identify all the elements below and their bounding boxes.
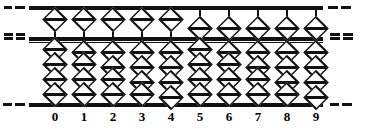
bead-rod-line bbox=[248, 93, 268, 96]
bead-rod-line bbox=[306, 81, 326, 84]
frame-dash-right bbox=[343, 33, 353, 36]
bead-rod-line bbox=[103, 51, 123, 54]
bead-rod-line bbox=[45, 78, 65, 81]
bead-rod-line bbox=[219, 63, 239, 66]
bead-rod-line bbox=[190, 63, 210, 66]
bead-rod-line bbox=[190, 93, 210, 96]
frame-dash-right bbox=[341, 6, 351, 9]
bead-rod-line bbox=[248, 78, 268, 81]
bead-rod-line bbox=[306, 27, 326, 30]
abacus-beam-edge-line bbox=[29, 42, 323, 43]
bead-rod-line bbox=[277, 66, 297, 69]
heaven-bead-col-1-inactive[interactable] bbox=[71, 11, 97, 28]
bead-rod-line bbox=[190, 27, 210, 30]
bead-rod-line bbox=[306, 51, 326, 54]
bead-rod-line bbox=[132, 18, 152, 21]
column-label-0: 0 bbox=[46, 110, 64, 124]
column-label-3: 3 bbox=[133, 110, 151, 124]
bead-rod-line bbox=[190, 48, 210, 51]
frame-dash-right bbox=[330, 103, 339, 106]
earth-bead-col-3-inactive-1[interactable] bbox=[129, 86, 155, 103]
frame-dash-left bbox=[4, 6, 12, 9]
bead-rod-line bbox=[219, 78, 239, 81]
bead-rod-line bbox=[132, 51, 152, 54]
column-label-4: 4 bbox=[162, 110, 180, 124]
bead-rod-line bbox=[219, 93, 239, 96]
bead-rod-line bbox=[277, 27, 297, 30]
frame-dash-left bbox=[4, 33, 13, 36]
bead-rod-line bbox=[74, 78, 94, 81]
abacus-diagram: 0123456789 bbox=[0, 0, 371, 129]
column-label-7: 7 bbox=[249, 110, 267, 124]
bead-rod-line bbox=[161, 18, 181, 21]
heaven-bead-col-9-active[interactable] bbox=[303, 20, 329, 37]
heaven-bead-col-6-active[interactable] bbox=[216, 20, 242, 37]
column-label-2: 2 bbox=[104, 110, 122, 124]
frame-dash-right bbox=[328, 6, 338, 9]
bead-rod-line bbox=[103, 93, 123, 96]
earth-bead-col-7-inactive-2[interactable] bbox=[245, 86, 271, 103]
bead-rod-line bbox=[45, 48, 65, 51]
column-label-1: 1 bbox=[75, 110, 93, 124]
heaven-bead-col-8-active[interactable] bbox=[274, 20, 300, 37]
earth-bead-col-0-inactive-4[interactable] bbox=[42, 86, 68, 103]
bead-rod-line bbox=[161, 81, 181, 84]
earth-bead-col-1-inactive-3[interactable] bbox=[71, 86, 97, 103]
bead-rod-line bbox=[45, 63, 65, 66]
earth-bead-col-2-inactive-2[interactable] bbox=[100, 86, 126, 103]
heaven-bead-col-4-inactive[interactable] bbox=[158, 11, 184, 28]
bead-rod-line bbox=[190, 78, 210, 81]
heaven-bead-col-3-inactive[interactable] bbox=[129, 11, 155, 28]
earth-bead-col-5-inactive-4[interactable] bbox=[187, 86, 213, 103]
frame-dash-right bbox=[330, 33, 340, 36]
frame-dash-right bbox=[343, 37, 353, 40]
bead-rod-line bbox=[132, 66, 152, 69]
bead-rod-line bbox=[219, 27, 239, 30]
column-label-6: 6 bbox=[220, 110, 238, 124]
frame-dash-right bbox=[342, 103, 352, 106]
frame-dash-left bbox=[15, 6, 25, 9]
bead-rod-line bbox=[161, 96, 181, 99]
bead-rod-line bbox=[306, 96, 326, 99]
bead-rod-line bbox=[277, 93, 297, 96]
bead-rod-line bbox=[248, 27, 268, 30]
bead-rod-line bbox=[161, 51, 181, 54]
earth-bead-col-9-active-4[interactable] bbox=[303, 89, 329, 106]
column-label-9: 9 bbox=[307, 110, 325, 124]
heaven-bead-col-5-active[interactable] bbox=[187, 20, 213, 37]
earth-bead-col-6-inactive-3[interactable] bbox=[216, 86, 242, 103]
bead-rod-line bbox=[103, 78, 123, 81]
column-label-8: 8 bbox=[278, 110, 296, 124]
bead-rod-line bbox=[45, 93, 65, 96]
heaven-bead-col-0-inactive[interactable] bbox=[42, 11, 68, 28]
bead-rod-line bbox=[74, 93, 94, 96]
frame-dash-right bbox=[330, 37, 340, 40]
frame-dash-left bbox=[16, 37, 25, 40]
column-label-5: 5 bbox=[191, 110, 209, 124]
bead-rod-line bbox=[103, 18, 123, 21]
abacus-reckoning-beam bbox=[29, 37, 323, 41]
bead-rod-line bbox=[248, 51, 268, 54]
bead-rod-line bbox=[132, 93, 152, 96]
bead-rod-line bbox=[277, 51, 297, 54]
earth-bead-col-8-inactive-1[interactable] bbox=[274, 86, 300, 103]
bead-rod-line bbox=[74, 18, 94, 21]
bead-rod-line bbox=[161, 66, 181, 69]
bead-rod-line bbox=[45, 18, 65, 21]
bead-rod-line bbox=[74, 63, 94, 66]
earth-bead-col-4-active-4[interactable] bbox=[158, 89, 184, 106]
bead-rod-line bbox=[306, 66, 326, 69]
frame-dash-left bbox=[3, 103, 12, 106]
abacus-top-bar bbox=[29, 6, 323, 10]
frame-dash-left bbox=[15, 103, 25, 106]
heaven-bead-col-7-active[interactable] bbox=[245, 20, 271, 37]
heaven-bead-col-2-inactive[interactable] bbox=[100, 11, 126, 28]
frame-dash-left bbox=[4, 37, 13, 40]
frame-dash-left bbox=[16, 33, 25, 36]
